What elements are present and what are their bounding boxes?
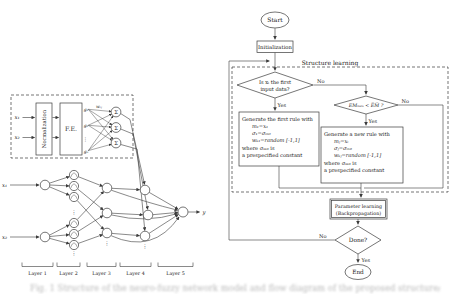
start-label: Start [267,16,283,23]
edge [112,233,140,235]
membership-node [69,192,78,201]
no-label: No [317,78,325,84]
sigma-symbol: Σ [114,125,118,131]
layer2-to-layer3-edges [77,177,104,244]
edge [49,238,69,243]
bracket [87,263,116,267]
edge [77,200,104,229]
sigma-nodes: Σ Σ Σ [111,107,121,148]
caption-cropped: Fig. 1 Structure of the neuro-fuzzy netw… [30,283,440,294]
layer-brackets: Layer 1 Layer 2 Layer 3 Layer 4 Layer 5 [22,263,193,277]
membership-node [69,229,78,238]
output-node [178,207,188,217]
new-rule-line: mⱼ=xᵢ [334,138,348,144]
fe-label: F.E. [65,125,77,132]
sigma-symbol: Σ [114,109,118,115]
first-rule-line: m₁=x₁ [252,123,268,129]
layer-label: Layer 1 [28,271,46,277]
flowchart: Start Initialization Structure learning … [229,12,448,280]
consequent-node [140,231,150,241]
fe-output-gn: gₙ [84,149,89,154]
ellipsis: ⋮ [71,209,76,215]
edge [49,187,69,195]
input-x2-label: x₂ [2,234,7,240]
bracket [120,263,151,267]
edge [78,177,102,187]
edge [50,235,69,237]
fe-output-g2: g₂ [84,123,89,128]
bracket [57,263,80,267]
edge [112,213,143,215]
sigma-symbol: Σ [114,140,118,146]
ellipsis: ⋮ [83,137,88,142]
yes-label: Yes [277,102,287,108]
input-x1-label: x₁ [2,182,7,188]
structure-learning-title: Structure learning [302,59,359,67]
layer1-nodes [40,180,50,242]
fe-to-sigma-edges [88,109,113,150]
rule-node [102,228,112,238]
edge [78,235,102,244]
layer-label: Layer 4 [126,271,144,277]
new-rule-line: where σᵢₙᵢₜ is [324,160,357,166]
yes-label: Yes [361,257,371,263]
rule-node [102,208,112,218]
end-label: End [352,269,364,275]
rule-node [102,183,112,193]
membership-node [69,170,78,179]
decision-error-label: EMₘₐₓ < E̅M̅ ? [348,102,384,108]
membership-node [69,240,78,249]
input-x1-label: x₁ [14,114,19,120]
fe-output-g1: g₁ [84,107,89,112]
bracket [22,263,53,267]
new-rule-line: σⱼ=σᵢₙᵢₜ [334,145,353,151]
normalization-label: Normalization [41,109,47,148]
done-label: Done? [349,237,367,243]
edge [88,116,113,151]
edge [88,109,113,139]
edge [112,188,140,189]
first-rule-line: where σᵢₙᵢₜ is [242,145,275,151]
input-x2-label: x₂ [14,134,19,140]
first-rule-line: a prespecified constant [242,152,302,159]
edge [78,216,103,232]
output-y-label: y [202,209,207,216]
edge [313,85,366,94]
first-rule-line: Generate the first rule with [242,116,314,122]
edge [49,177,69,184]
network-diagram: x₁ x₂ Normalization F.E. g₁ g₂ gₙ ⋮ wᵢⱼ [2,95,207,277]
new-rule-line: a prespecified constant [324,167,384,174]
first-rule-line: wₖ₁=random [-1,1] [252,137,300,143]
no-label: No [402,98,410,104]
edge [49,225,69,235]
edge [121,129,148,209]
edge [50,185,69,186]
edge [88,125,111,127]
bracket [158,263,193,267]
ellipsis: ⋮ [104,240,109,246]
new-rule-line: wₖⱼ=random [-1,1] [334,152,381,158]
membership-node [69,218,78,227]
figure-canvas: x₁ x₂ Normalization F.E. g₁ g₂ gₙ ⋮ wᵢⱼ [0,0,452,294]
first-rule-line: σ₁=σᵢₙᵢₜ [252,130,271,136]
new-rule-line: Generate a new rule with [324,131,390,137]
layer-label: Layer 5 [166,271,184,277]
edge [88,109,111,111]
weight-label: wᵢⱼ [96,104,103,109]
neuron-node [40,180,50,190]
layer4-to-layer5-edges [149,192,178,233]
edge [88,125,112,140]
layer-label: Layer 3 [92,271,110,277]
diagram-svg: x₁ x₂ Normalization F.E. g₁ g₂ gₙ ⋮ wᵢⱼ [0,0,452,294]
ellipsis: ⋮ [71,250,76,256]
no-label: No [319,233,327,239]
consequent-node [140,185,150,195]
layer1-to-layer2-edges [49,177,69,244]
layer3-nodes [102,183,112,238]
ellipsis: ⋮ [142,243,147,249]
yes-label: Yes [368,118,378,124]
edge [78,189,104,210]
neuron-node [40,232,50,242]
initialization-label: Initialization [258,44,293,50]
layer-label: Layer 2 [59,271,77,277]
